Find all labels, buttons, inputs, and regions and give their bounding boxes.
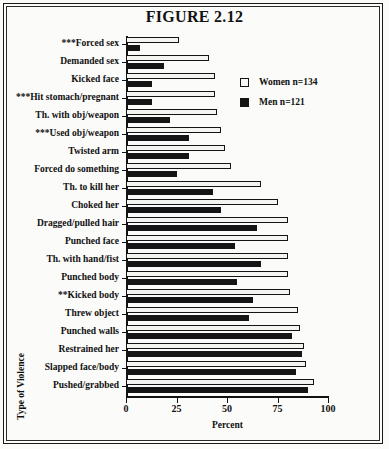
bar-women xyxy=(126,109,217,115)
bar-women xyxy=(126,127,221,133)
category-label: ***Used obj/weapon xyxy=(35,127,119,139)
bar-women xyxy=(126,271,288,277)
category-label: Punched body xyxy=(61,271,119,283)
figure-container: FIGURE 2.12 ***Forced sexDemanded sexKic… xyxy=(0,0,389,449)
bar-men xyxy=(126,351,302,357)
bar-row: Punched body xyxy=(126,270,328,288)
category-label: Threw object xyxy=(65,307,119,319)
bar-women xyxy=(126,37,179,43)
x-axis-ticks: 0255075100 xyxy=(126,398,329,418)
x-axis-label: Percent xyxy=(126,420,329,430)
bar-men xyxy=(126,63,164,69)
bar-men xyxy=(126,333,292,339)
bar-row: Choked her xyxy=(126,198,328,216)
bar-women xyxy=(126,199,278,205)
bar-row: Slapped face/body xyxy=(126,360,328,378)
x-tick-label: 25 xyxy=(172,403,182,414)
bar-row: Twisted arm xyxy=(126,144,328,162)
bar-women xyxy=(126,163,231,169)
category-label: Kicked face xyxy=(71,73,119,85)
bar-women xyxy=(126,289,290,295)
category-label: Th. to kill her xyxy=(63,181,119,193)
bar-row: Punched walls xyxy=(126,324,328,342)
bar-men xyxy=(126,387,308,393)
legend-item: Women n=134 xyxy=(240,72,370,92)
bar-row: Threw object xyxy=(126,306,328,324)
bar-row: Th. with hand/fist xyxy=(126,252,328,270)
bar-women xyxy=(126,307,298,313)
bar-row: **Kicked body xyxy=(126,288,328,306)
bar-men xyxy=(126,171,177,177)
bar-women xyxy=(126,235,288,241)
bar-men xyxy=(126,99,152,105)
bar-men xyxy=(126,315,249,321)
bar-row: Forced do something xyxy=(126,162,328,180)
category-label: Dragged/pulled hair xyxy=(37,217,119,229)
x-tick-label: 50 xyxy=(222,403,232,414)
category-label: Demanded sex xyxy=(60,55,119,67)
category-label: Forced do something xyxy=(34,163,119,175)
legend-item: Men n=121 xyxy=(240,92,370,112)
x-tick-label: 0 xyxy=(124,403,129,414)
category-label: Th. with hand/fist xyxy=(46,253,119,265)
category-label: ***Forced sex xyxy=(61,37,119,49)
figure-title: FIGURE 2.12 xyxy=(0,8,389,26)
category-label: Restrained her xyxy=(59,343,119,355)
bar-women xyxy=(126,55,209,61)
legend-swatch-women-icon xyxy=(240,78,249,87)
bar-row: Demanded sex xyxy=(126,54,328,72)
bar-men xyxy=(126,243,235,249)
bar-women xyxy=(126,343,304,349)
bar-women xyxy=(126,217,288,223)
bar-row: Pushed/grabbed xyxy=(126,378,328,396)
bar-row: Dragged/pulled hair xyxy=(126,216,328,234)
bar-men xyxy=(126,207,221,213)
bar-row: Th. to kill her xyxy=(126,180,328,198)
bar-men xyxy=(126,81,152,87)
bar-women xyxy=(126,91,215,97)
bar-men xyxy=(126,261,261,267)
bar-men xyxy=(126,45,140,51)
bar-men xyxy=(126,369,296,375)
x-tick-label: 75 xyxy=(273,403,283,414)
bar-men xyxy=(126,117,170,123)
bar-women xyxy=(126,253,288,259)
bar-women xyxy=(126,379,314,385)
y-axis-label: Type of Violence xyxy=(16,290,26,420)
bar-men xyxy=(126,189,213,195)
chart-legend: Women n=134Men n=121 xyxy=(240,72,370,112)
bar-row: ***Used obj/weapon xyxy=(126,126,328,144)
bar-row: ***Forced sex xyxy=(126,36,328,54)
legend-label: Men n=121 xyxy=(259,97,305,107)
bar-women xyxy=(126,361,306,367)
bar-men xyxy=(126,279,237,285)
bar-men xyxy=(126,135,189,141)
category-label: **Kicked body xyxy=(58,289,119,301)
bar-women xyxy=(126,181,261,187)
category-label: Punched face xyxy=(65,235,119,247)
bar-men xyxy=(126,225,257,231)
category-label: Twisted arm xyxy=(68,145,119,157)
category-label: Pushed/grabbed xyxy=(53,379,119,391)
category-label: Choked her xyxy=(71,199,119,211)
y-axis-label-wrap: Type of Violence xyxy=(14,270,28,390)
category-label: Punched walls xyxy=(61,325,119,337)
category-label: Slapped face/body xyxy=(45,361,119,373)
bar-men xyxy=(126,297,253,303)
bar-women xyxy=(126,73,215,79)
legend-swatch-men-icon xyxy=(240,98,249,107)
legend-label: Women n=134 xyxy=(259,77,317,87)
bar-women xyxy=(126,325,300,331)
bar-row: Punched face xyxy=(126,234,328,252)
bar-women xyxy=(126,145,225,151)
bar-row: Restrained her xyxy=(126,342,328,360)
category-label: ***Hit stomach/pregnant xyxy=(16,91,119,103)
x-tick-label: 100 xyxy=(321,403,336,414)
category-label: Th. with obj/weapon xyxy=(35,109,119,121)
bar-men xyxy=(126,153,189,159)
